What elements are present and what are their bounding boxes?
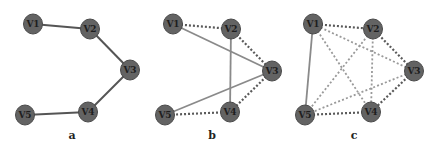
node-label: V3 xyxy=(406,66,420,76)
node-v5: V5 xyxy=(16,105,35,125)
node-v4: V4 xyxy=(362,102,381,122)
node-v2: V2 xyxy=(81,19,100,39)
node-label: V1 xyxy=(305,19,319,29)
edge-v1-v5 xyxy=(305,24,313,115)
node-v3: V3 xyxy=(121,60,140,80)
node-v4: V4 xyxy=(79,102,98,122)
panel-caption: b xyxy=(208,129,216,142)
panel-caption: c xyxy=(351,129,358,142)
panel-b: V1V2V3V4V5b xyxy=(156,14,282,142)
node-label: V1 xyxy=(25,19,39,29)
node-label: V1 xyxy=(165,19,179,29)
node-label: V4 xyxy=(363,107,377,117)
edge-v3-v5 xyxy=(305,71,414,115)
node-label: V2 xyxy=(365,24,379,34)
node-v2: V2 xyxy=(222,19,241,39)
node-v3: V3 xyxy=(263,61,282,81)
node-v3: V3 xyxy=(405,61,424,81)
node-v4: V4 xyxy=(221,102,240,122)
node-label: V2 xyxy=(223,24,237,34)
node-v1: V1 xyxy=(304,14,323,34)
node-label: V4 xyxy=(80,107,94,117)
panel-caption: a xyxy=(68,129,75,142)
graph-canvas: V1V2V3V4V5a V1V2V3V4V5b V1V2V3V4V5c xyxy=(0,0,437,150)
node-label: V5 xyxy=(17,110,31,120)
node-label: V3 xyxy=(122,65,136,75)
node-label: V5 xyxy=(297,110,311,120)
node-label: V4 xyxy=(222,107,236,117)
graph-figure: V1V2V3V4V5a V1V2V3V4V5b V1V2V3V4V5c xyxy=(0,0,437,150)
node-v1: V1 xyxy=(24,14,43,34)
node-label: V5 xyxy=(157,110,171,120)
edge-v2-v4 xyxy=(371,29,373,112)
edge-v3-v5 xyxy=(165,71,272,115)
node-label: V3 xyxy=(264,66,278,76)
node-label: V2 xyxy=(82,24,96,34)
node-v2: V2 xyxy=(364,19,383,39)
node-v1: V1 xyxy=(164,14,183,34)
edge-v1-v4 xyxy=(313,24,371,112)
node-v5: V5 xyxy=(156,105,175,125)
panel-a: V1V2V3V4V5a xyxy=(16,14,140,142)
node-v5: V5 xyxy=(296,105,315,125)
panel-c: V1V2V3V4V5c xyxy=(296,14,424,142)
edge-v2-v4 xyxy=(230,29,231,112)
